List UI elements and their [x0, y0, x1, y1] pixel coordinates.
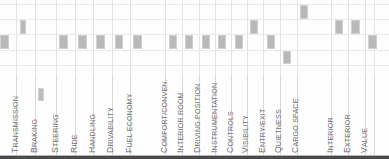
category-label-value: Value — [360, 77, 370, 153]
category-label-fuel-economy: Fuel Economy — [125, 77, 135, 153]
bar-steering — [59, 35, 67, 49]
vertical-gridline — [93, 0, 94, 76]
category-label-acceleration: Acceleration — [0, 77, 2, 153]
vertical-gridline — [165, 0, 166, 76]
category-label-braking: Braking — [30, 77, 40, 153]
ratings-chart: AccelerationTransmissionBrakingSteeringR… — [0, 0, 389, 159]
vertical-gridline — [215, 0, 216, 76]
category-label-drivability: Drivability — [106, 77, 116, 153]
category-label-instrumentation: Instrumentation — [210, 77, 220, 153]
vertical-gridline — [182, 0, 183, 76]
category-label-transmission: Transmission — [11, 77, 21, 153]
bar-controls — [235, 35, 243, 49]
category-label-driving-position: Driving Position — [193, 77, 203, 153]
chart-plot-area — [0, 0, 389, 76]
bar-entry-exit — [267, 35, 275, 49]
bar-fuel-economy — [133, 35, 141, 49]
category-label-entry-exit: Entry/Exit — [258, 77, 268, 153]
vertical-gridline — [199, 0, 200, 76]
bar-interior — [335, 20, 343, 34]
bar-handling — [96, 35, 104, 49]
vertical-gridline — [130, 0, 131, 76]
category-label-visibility: Visibility — [241, 77, 251, 153]
category-label-exterior: Exterior — [343, 77, 353, 153]
bar-interior-room — [185, 35, 193, 49]
category-label-steering: Steering — [51, 77, 61, 153]
vertical-gridline — [280, 0, 281, 76]
vertical-gridline — [348, 0, 349, 76]
bar-comfort-conven — [169, 35, 177, 49]
category-label-comfort-conven: Comfort/Conven. — [160, 77, 170, 153]
vertical-gridline — [247, 0, 248, 76]
vertical-gridline — [297, 0, 298, 76]
vertical-gridline — [56, 0, 57, 76]
bar-exterior — [351, 20, 359, 34]
bar-acceleration — [0, 35, 9, 49]
category-label-ride: Ride — [70, 77, 80, 153]
vertical-gridline — [263, 0, 264, 76]
category-label-controls: Controls — [226, 77, 236, 153]
category-label-handling: Handling — [88, 77, 98, 153]
bar-value — [368, 35, 376, 49]
bar-instrumentation — [218, 35, 226, 49]
bar-ride — [78, 35, 86, 49]
chart-label-area: AccelerationTransmissionBrakingSteeringR… — [0, 76, 389, 159]
bar-cargo-space — [300, 5, 308, 19]
vertical-gridline — [112, 0, 113, 76]
category-label-cargo-space: Cargo Space — [291, 77, 301, 153]
category-label-interior-room: Interior Room — [176, 77, 186, 153]
vertical-gridline — [331, 0, 332, 76]
vertical-gridline — [374, 76, 375, 159]
bar-quietness — [283, 51, 291, 65]
category-label-quietness: Quietness — [274, 77, 284, 153]
bar-driving-position — [202, 35, 210, 49]
bar-drivability — [115, 35, 123, 49]
vertical-gridline — [365, 0, 366, 76]
axis-rule — [0, 156, 389, 159]
bar-visibility — [250, 20, 258, 34]
vertical-gridline — [75, 0, 76, 76]
vertical-gridline — [16, 0, 17, 76]
vertical-gridline — [35, 0, 36, 76]
category-label-interior: Interior — [326, 77, 336, 153]
bar-transmission — [20, 20, 26, 34]
vertical-gridline — [231, 0, 232, 76]
